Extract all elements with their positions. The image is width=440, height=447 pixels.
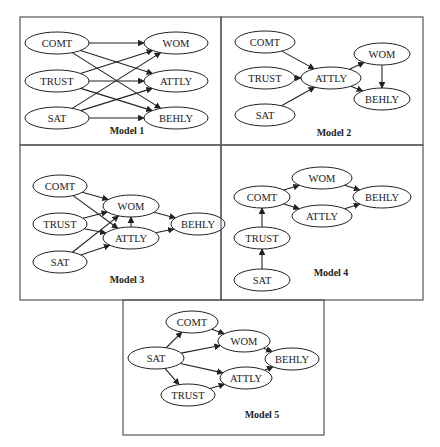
node-label: TRUST bbox=[43, 219, 77, 230]
arrow-trust-to-attly bbox=[210, 384, 225, 388]
arrow-wom-to-behly bbox=[154, 212, 175, 218]
arrow-sat-to-attly bbox=[281, 87, 314, 106]
node-trust: TRUST bbox=[33, 213, 87, 235]
node-behly: BEHLY bbox=[144, 107, 208, 129]
panel-m3: COMTTRUSTSATWOMATTLYBEHLYModel 3 bbox=[20, 145, 225, 300]
panel-caption: Model 4 bbox=[314, 267, 349, 278]
arrow-comt-to-wom bbox=[82, 192, 108, 199]
node-label: BEHLY bbox=[181, 219, 215, 230]
arrow-attly-to-behly bbox=[265, 367, 273, 370]
node-label: TRUST bbox=[245, 233, 279, 244]
node-label: COMT bbox=[247, 192, 278, 203]
node-trust: TRUST bbox=[235, 67, 295, 89]
panel-caption: Model 1 bbox=[110, 125, 145, 136]
node-label: WOM bbox=[163, 38, 190, 49]
node-label: BEHLY bbox=[365, 94, 399, 105]
arrow-trust-to-wom bbox=[83, 212, 108, 218]
node-label: ATTLY bbox=[115, 233, 148, 244]
node-label: SAT bbox=[147, 353, 166, 364]
arrow-trust-to-attly bbox=[84, 229, 106, 233]
node-label: WOM bbox=[369, 49, 396, 60]
node-label: COMT bbox=[177, 317, 208, 328]
node-wom: WOM bbox=[218, 330, 270, 352]
node-sat: SAT bbox=[128, 347, 184, 369]
node-comt: COMT bbox=[166, 311, 218, 333]
arrow-sat-to-trust bbox=[165, 368, 179, 384]
model-comparison-diagram: COMTTRUSTSATWOMATTLYBEHLYModel 1COMTTRUS… bbox=[0, 0, 440, 447]
arrow-comt-to-wom bbox=[212, 329, 225, 334]
panel-m2: COMTTRUSTSATATTLYWOMBEHLYModel 2 bbox=[221, 17, 423, 145]
node-label: COMT bbox=[45, 181, 76, 192]
node-trust: TRUST bbox=[161, 384, 215, 406]
node-label: COMT bbox=[42, 38, 73, 49]
node-attly: ATTLY bbox=[301, 67, 361, 89]
node-comt: COMT bbox=[234, 186, 290, 208]
node-label: TRUST bbox=[40, 76, 74, 87]
node-label: WOM bbox=[118, 201, 145, 212]
node-trust: TRUST bbox=[25, 70, 89, 92]
node-label: ATTLY bbox=[160, 76, 193, 87]
arrow-wom-to-behly bbox=[345, 185, 360, 190]
node-label: SAT bbox=[48, 113, 67, 124]
arrow-attly-to-wom bbox=[349, 62, 364, 69]
node-label: ATTLY bbox=[306, 211, 339, 222]
node-label: SAT bbox=[256, 110, 275, 121]
arrow-comt-to-wom bbox=[284, 185, 299, 190]
panel-caption: Model 2 bbox=[317, 127, 352, 138]
node-label: TRUST bbox=[248, 73, 282, 84]
node-behly: BEHLY bbox=[171, 213, 225, 235]
arrow-comt-to-attly bbox=[282, 51, 315, 69]
node-wom: WOM bbox=[292, 167, 352, 189]
node-attly: ATTLY bbox=[220, 367, 272, 389]
node-sat: SAT bbox=[25, 107, 89, 129]
node-sat: SAT bbox=[33, 251, 87, 273]
node-sat: SAT bbox=[234, 269, 290, 291]
node-label: WOM bbox=[231, 336, 258, 347]
node-behly: BEHLY bbox=[265, 348, 319, 370]
node-comt: COMT bbox=[33, 175, 87, 197]
node-label: TRUST bbox=[171, 390, 205, 401]
arrow-attly-to-behly bbox=[156, 229, 174, 233]
node-label: ATTLY bbox=[315, 73, 348, 84]
node-comt: COMT bbox=[25, 32, 89, 54]
node-label: BEHLY bbox=[365, 192, 399, 203]
node-wom: WOM bbox=[354, 43, 410, 65]
panel-caption: Model 5 bbox=[245, 409, 280, 420]
node-label: WOM bbox=[309, 173, 336, 184]
node-label: BEHLY bbox=[159, 113, 193, 124]
node-attly: ATTLY bbox=[144, 70, 208, 92]
node-behly: BEHLY bbox=[354, 88, 410, 110]
panel-caption: Model 3 bbox=[110, 274, 145, 285]
node-wom: WOM bbox=[103, 195, 159, 217]
arrow-sat-to-attly bbox=[180, 363, 223, 372]
node-sat: SAT bbox=[235, 104, 295, 126]
panel-m1: COMTTRUSTSATWOMATTLYBEHLYModel 1 bbox=[20, 17, 221, 145]
node-attly: ATTLY bbox=[292, 205, 352, 227]
node-attly: ATTLY bbox=[103, 227, 159, 249]
arrow-attly-to-behly bbox=[351, 86, 363, 91]
node-comt: COMT bbox=[235, 31, 295, 53]
arrow-sat-to-wom bbox=[181, 346, 220, 354]
panel-m4: COMTTRUSTSATWOMATTLYBEHLYModel 4 bbox=[221, 145, 423, 300]
panel-m5: SATCOMTTRUSTWOMATTLYBEHLYModel 5 bbox=[123, 300, 324, 435]
arrow-sat-to-comt bbox=[166, 332, 182, 348]
arrow-wom-to-behly bbox=[263, 348, 272, 351]
node-label: COMT bbox=[250, 37, 281, 48]
node-label: SAT bbox=[51, 257, 70, 268]
arrow-sat-to-attly bbox=[81, 245, 110, 255]
node-wom: WOM bbox=[144, 32, 208, 54]
node-label: SAT bbox=[253, 275, 272, 286]
arrow-comt-to-attly bbox=[284, 204, 299, 209]
node-label: BEHLY bbox=[275, 354, 309, 365]
node-trust: TRUST bbox=[234, 227, 290, 249]
arrow-attly-to-behly bbox=[345, 204, 360, 209]
node-label: ATTLY bbox=[230, 373, 263, 384]
node-behly: BEHLY bbox=[353, 186, 411, 208]
